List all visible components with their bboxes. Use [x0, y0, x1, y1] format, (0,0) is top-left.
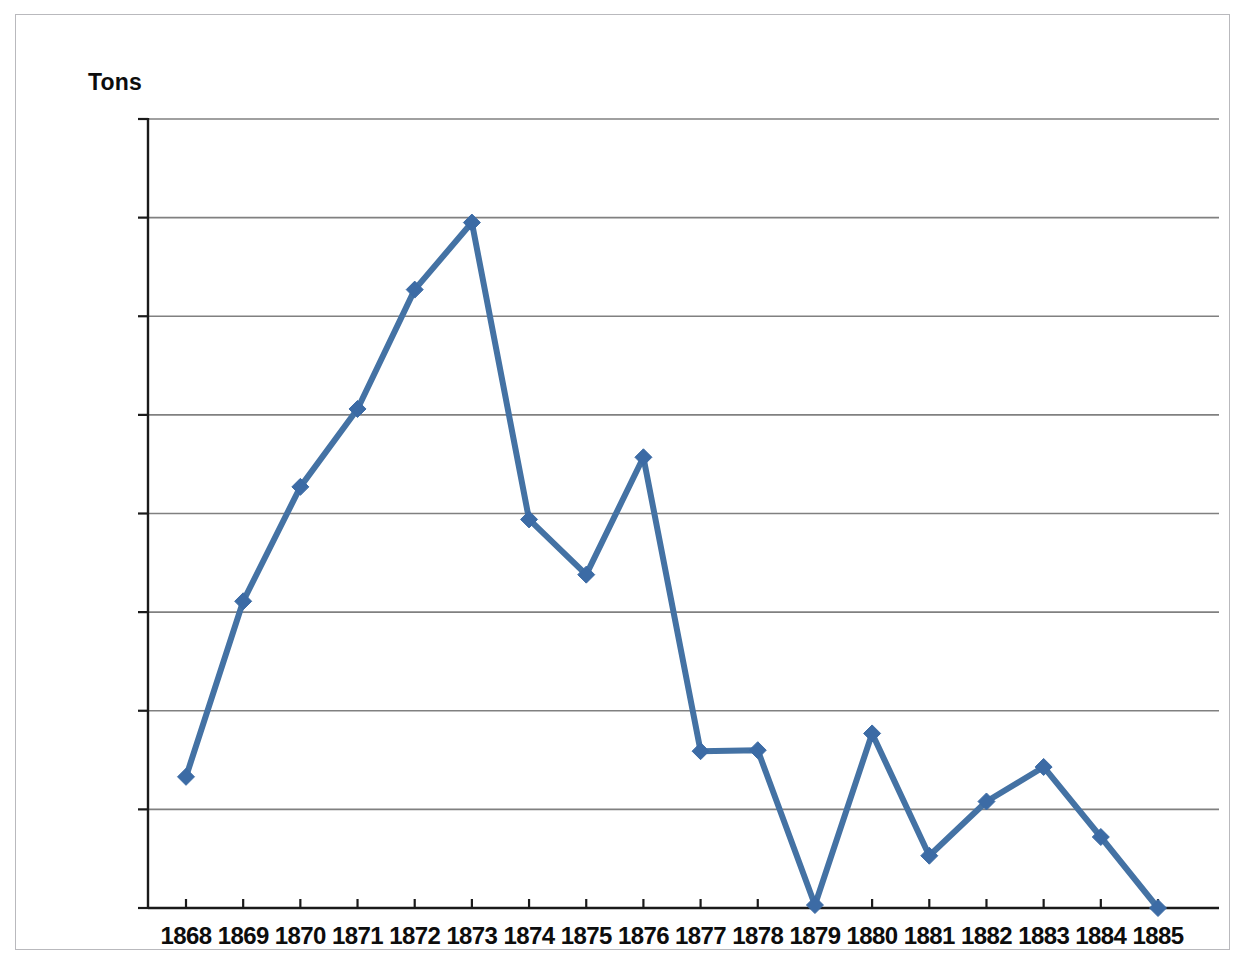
plot-canvas — [0, 0, 1242, 974]
line-chart: Tons 010,00020,00030,00040,00050,00060,0… — [0, 0, 1242, 974]
data-point-marker — [178, 768, 195, 785]
data-point-marker — [749, 742, 766, 759]
chart-page: Tons 010,00020,00030,00040,00050,00060,0… — [0, 0, 1242, 974]
data-point-marker — [692, 743, 709, 760]
data-point-marker — [806, 897, 823, 914]
data-series-line — [186, 223, 1158, 908]
